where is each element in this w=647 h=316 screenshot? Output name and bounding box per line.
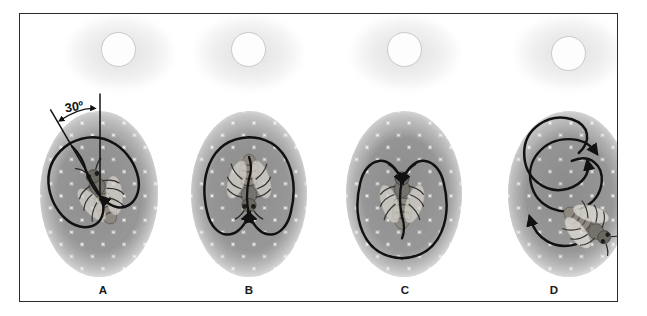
bee-illustration-d [480,14,618,301]
figure-page: 30º A [0,0,647,316]
panel-b: B [175,14,327,301]
panel-letter-a: A [83,284,123,296]
dance-path-b [175,14,327,301]
panel-letter-b: B [229,284,269,296]
panel-letter-c: C [385,284,425,296]
panel-c: C [328,14,480,301]
panel-d: D [480,14,618,301]
dance-path-a [20,14,180,301]
panel-letter-d: D [534,284,574,296]
dance-path-c [328,14,480,301]
panel-a: 30º A [20,14,180,301]
figure-frame: 30º A [19,13,618,302]
